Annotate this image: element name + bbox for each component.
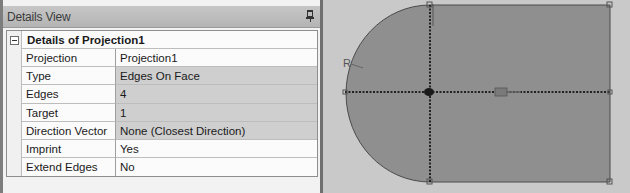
section-title: Details of Projection1: [22, 31, 145, 48]
pin-icon[interactable]: [306, 10, 314, 22]
property-label: Edges: [22, 85, 116, 103]
property-label: Imprint: [22, 140, 116, 158]
horizontal-dimension-marker[interactable]: [495, 88, 507, 96]
property-value-dropdown[interactable]: Edges On Face: [116, 67, 317, 85]
collapse-toggle[interactable]: [7, 31, 22, 49]
graphics-viewport[interactable]: R: [320, 0, 630, 193]
details-view-header: Details View: [3, 6, 320, 28]
property-value-selection[interactable]: 4: [116, 85, 317, 103]
property-value-selection[interactable]: 1: [116, 104, 317, 122]
property-row-projection[interactable]: Projection Projection1: [7, 49, 317, 67]
property-row-direction-vector[interactable]: Direction Vector None (Closest Direction…: [7, 122, 317, 140]
center-point[interactable]: [424, 88, 434, 96]
section-header-details-of-projection: Details of Projection1: [7, 31, 317, 49]
property-label: Projection: [22, 49, 116, 67]
property-value-dropdown[interactable]: No: [116, 158, 317, 176]
details-grid: Details of Projection1 Projection Projec…: [6, 30, 318, 177]
panel-title: Details View: [7, 10, 70, 24]
property-value-selection[interactable]: None (Closest Direction): [116, 122, 317, 140]
property-label: Type: [22, 67, 116, 85]
minus-box-icon: [10, 36, 19, 45]
property-label: Extend Edges: [22, 158, 116, 176]
details-view-panel: Details View Details of Projection1 Proj…: [0, 0, 320, 193]
property-label: Direction Vector: [22, 122, 116, 140]
radius-dimension-label[interactable]: R: [343, 57, 351, 69]
property-row-imprint[interactable]: Imprint Yes: [7, 140, 317, 158]
property-row-target[interactable]: Target 1: [7, 104, 317, 122]
property-row-edges[interactable]: Edges 4: [7, 85, 317, 103]
property-value-dropdown[interactable]: Yes: [116, 140, 317, 158]
property-row-type[interactable]: Type Edges On Face: [7, 67, 317, 85]
property-label: Target: [22, 104, 116, 122]
face-shape[interactable]: [346, 5, 610, 182]
property-value-input[interactable]: Projection1: [116, 49, 317, 67]
property-row-extend-edges[interactable]: Extend Edges No: [7, 158, 317, 176]
geometry-canvas[interactable]: R: [323, 0, 630, 193]
